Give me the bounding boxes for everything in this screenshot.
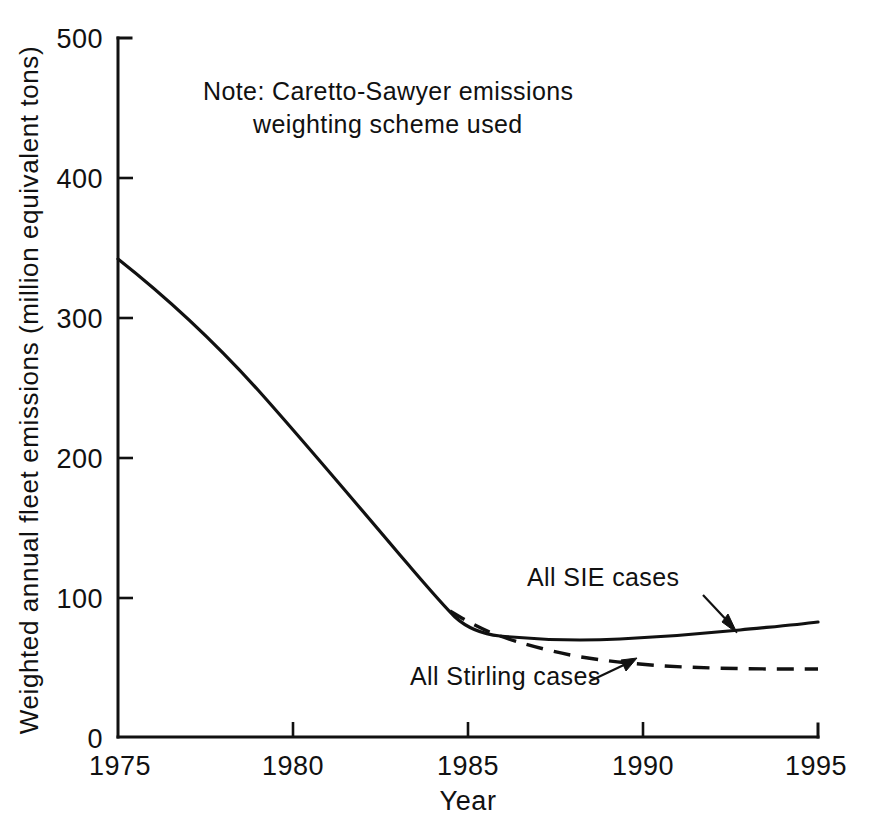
x-tick-label-1990: 1990 [612,751,674,781]
chart-canvas: 500 400 300 200 100 0 1975 1980 1985 199… [0,0,873,832]
x-tick-label-1995: 1995 [785,751,847,781]
x-axis-title: Year [440,786,497,816]
x-tick-label-1980: 1980 [262,751,324,781]
y-tick-label-100: 100 [56,584,103,614]
y-tick-label-0: 0 [87,724,103,754]
series-label-all-stirling-cases: All Stirling cases [410,662,601,690]
y-tick-label-300: 300 [56,304,103,334]
arrowhead-stirling-icon [621,658,637,671]
series-all-sie-cases [118,259,818,640]
x-tick-label-1985: 1985 [437,751,499,781]
note-line-1: Note: Caretto-Sawyer emissions [203,77,573,105]
y-tick-label-400: 400 [56,164,103,194]
x-tick-label-1975: 1975 [89,751,151,781]
note-line-2: weighting scheme used [252,110,523,138]
series-label-all-sie-cases: All SIE cases [527,563,679,591]
y-tick-label-200: 200 [56,444,103,474]
y-tick-label-500: 500 [56,24,103,54]
y-axis-title: Weighted annual fleet emissions (million… [14,46,44,734]
emissions-line-chart-figure: 500 400 300 200 100 0 1975 1980 1985 199… [0,0,873,832]
